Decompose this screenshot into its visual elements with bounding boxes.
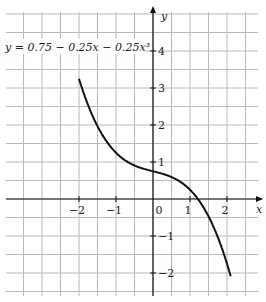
equation-label: y = 0.75 − 0.25x − 0.25x³ [4,41,150,54]
function-graph: −2−10124321−1−2xyy = 0.75 − 0.25x − 0.25… [0,0,266,302]
x-tick-label: 1 [185,204,192,217]
x-tick-label: 0 [156,204,163,217]
y-tick-label: 3 [158,82,165,95]
y-tick-label: 1 [158,156,165,169]
y-axis-arrow-icon [150,6,156,13]
y-tick-label: −2 [158,267,174,280]
x-tick-label: 2 [222,204,229,217]
x-tick-label: −2 [69,204,85,217]
y-tick-label: 4 [158,45,165,58]
plot-canvas: −2−10124321−1−2xyy = 0.75 − 0.25x − 0.25… [0,0,266,302]
x-axis-arrow-icon [256,196,263,202]
x-axis-label: x [256,203,263,216]
x-tick-label: −1 [106,204,122,217]
function-curve [79,79,231,276]
y-tick-label: 2 [158,119,165,132]
y-tick-label: −1 [158,230,174,243]
y-axis-label: y [160,10,168,23]
